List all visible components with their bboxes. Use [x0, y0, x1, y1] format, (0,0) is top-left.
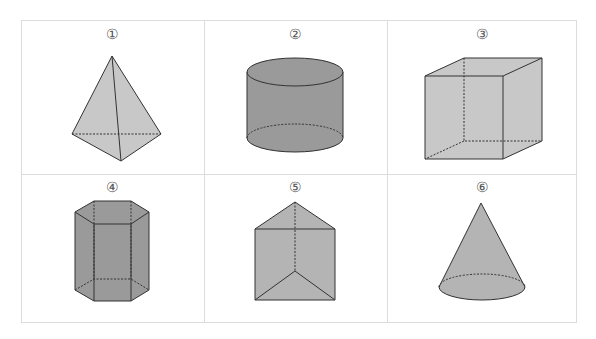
triangular-prism-icon	[204, 173, 387, 323]
cell-figure-5: ⑤	[204, 173, 387, 323]
cell-figure-2: ②	[204, 20, 387, 173]
cell-figure-6: ⑥	[387, 173, 577, 323]
triangular-pyramid-icon	[21, 20, 204, 173]
hexagonal-prism-icon	[21, 173, 204, 323]
cell-figure-1: ①	[21, 20, 204, 173]
cell-figure-4: ④	[21, 173, 204, 323]
cell-figure-3: ③	[387, 20, 577, 173]
cube-icon	[387, 20, 577, 173]
cone-icon	[387, 173, 577, 323]
cylinder-icon	[204, 20, 387, 173]
